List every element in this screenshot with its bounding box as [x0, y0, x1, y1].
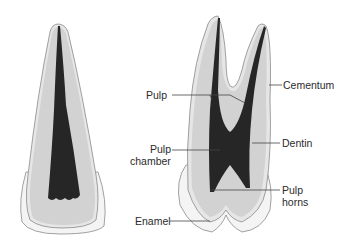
label-cementum: Cementum: [283, 79, 334, 91]
label-pulp-chamber-line1: Pulp: [148, 143, 171, 155]
label-pulp-chamber-line2: chamber: [130, 155, 171, 167]
label-pulp: Pulp: [146, 89, 167, 101]
label-pulp-horns-line2: horns: [282, 196, 308, 208]
label-pulp-horns-line1: Pulp: [282, 184, 303, 196]
molar-tooth: [178, 16, 271, 232]
label-dentin: Dentin: [282, 137, 312, 149]
incisor-tooth: [21, 24, 105, 234]
label-enamel: Enamel: [135, 215, 171, 227]
